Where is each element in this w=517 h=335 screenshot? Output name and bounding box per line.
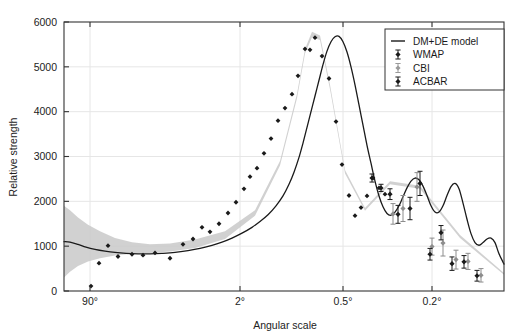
legend-label: CBI bbox=[413, 63, 430, 74]
data-point-marker bbox=[255, 166, 260, 171]
data-point-marker bbox=[217, 221, 222, 226]
errorbar-marker bbox=[474, 270, 479, 281]
data-point-marker bbox=[276, 118, 281, 123]
x-axis-title: Angular scale bbox=[253, 319, 317, 331]
chart-canvas: 0100020003000400050006000 90°2°0.5°0.2° … bbox=[0, 0, 517, 335]
errorbar-marker bbox=[390, 204, 395, 225]
y-axis-title: Relative strength bbox=[7, 117, 19, 196]
x-tick-label: 0.2° bbox=[423, 295, 442, 307]
data-point-marker bbox=[290, 92, 295, 97]
data-point-marker bbox=[234, 200, 239, 205]
data-point-marker bbox=[353, 213, 358, 218]
errorbar-marker bbox=[449, 257, 454, 270]
data-point-marker bbox=[262, 151, 267, 156]
legend-label: DM+DE model bbox=[413, 36, 478, 47]
y-tick-label: 3000 bbox=[34, 150, 58, 162]
y-tick-label: 1000 bbox=[34, 240, 58, 252]
data-point-marker bbox=[395, 212, 400, 217]
data-point-marker bbox=[208, 229, 213, 234]
data-point-marker bbox=[453, 257, 458, 262]
errorbar-marker bbox=[400, 196, 405, 222]
legend-label: ACBAR bbox=[413, 76, 447, 87]
y-tick-label: 2000 bbox=[34, 195, 58, 207]
y-tick-label: 0 bbox=[51, 285, 57, 297]
chart-legend: DM+DE modelWMAPCBIACBAR bbox=[385, 29, 504, 90]
data-point-marker bbox=[407, 206, 412, 211]
data-point-marker bbox=[296, 73, 301, 78]
errorbar-marker bbox=[395, 205, 400, 223]
data-point-marker bbox=[474, 273, 479, 278]
x-tick-label: 90° bbox=[82, 295, 98, 307]
errorbar-marker bbox=[407, 197, 412, 219]
legend-label: WMAP bbox=[413, 49, 444, 60]
errorbar-marker bbox=[387, 189, 392, 200]
x-tick-label: 2° bbox=[235, 295, 245, 307]
data-point-marker bbox=[283, 106, 288, 111]
data-point-marker bbox=[334, 119, 339, 124]
errorbar-marker bbox=[417, 171, 422, 195]
data-point-marker bbox=[168, 256, 173, 261]
data-point-marker bbox=[226, 211, 231, 216]
data-point-marker bbox=[347, 193, 352, 198]
x-tick-label: 0.5° bbox=[334, 295, 353, 307]
data-point-marker bbox=[387, 192, 392, 197]
data-point-marker bbox=[461, 259, 466, 264]
y-tick-label: 6000 bbox=[34, 16, 58, 28]
errorbar-marker bbox=[453, 250, 458, 269]
cmb-power-spectrum-figure: 0100020003000400050006000 90°2°0.5°0.2° … bbox=[0, 0, 517, 335]
data-point-marker bbox=[97, 261, 102, 266]
data-point-marker bbox=[465, 259, 470, 264]
y-tick-label: 4000 bbox=[34, 105, 58, 117]
data-point-marker bbox=[365, 194, 370, 199]
data-point-marker bbox=[200, 225, 205, 230]
data-point-marker bbox=[248, 174, 253, 179]
data-point-marker bbox=[89, 284, 94, 289]
data-point-marker bbox=[400, 206, 405, 211]
data-point-marker bbox=[327, 76, 332, 81]
data-point-marker bbox=[478, 273, 483, 278]
y-tick-label: 5000 bbox=[34, 61, 58, 73]
data-point-marker bbox=[308, 47, 313, 52]
data-point-marker bbox=[242, 186, 247, 191]
data-point-marker bbox=[383, 192, 388, 197]
data-point-marker bbox=[449, 261, 454, 266]
data-point-marker bbox=[440, 240, 445, 245]
errorbar-marker bbox=[461, 256, 466, 269]
data-point-marker bbox=[269, 136, 274, 141]
errorbar-marker bbox=[414, 173, 419, 202]
